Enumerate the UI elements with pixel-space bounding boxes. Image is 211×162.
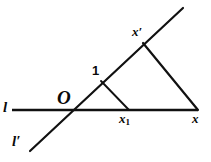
label-point-one: 1 bbox=[92, 64, 99, 77]
label-point-x-prime: x′ bbox=[132, 25, 142, 38]
label-point-x1-base: x bbox=[119, 111, 126, 126]
label-point-x1: x1 bbox=[119, 112, 130, 125]
label-line-l: l bbox=[3, 100, 7, 115]
figure-canvas bbox=[0, 0, 211, 162]
label-line-l-prime: l′ bbox=[12, 134, 20, 149]
label-point-x1-subscript: 1 bbox=[126, 117, 131, 127]
label-point-o: O bbox=[57, 88, 71, 107]
geometry-figure: l l′ O 1 x′ x1 x bbox=[0, 0, 211, 162]
label-point-x: x bbox=[192, 112, 199, 125]
